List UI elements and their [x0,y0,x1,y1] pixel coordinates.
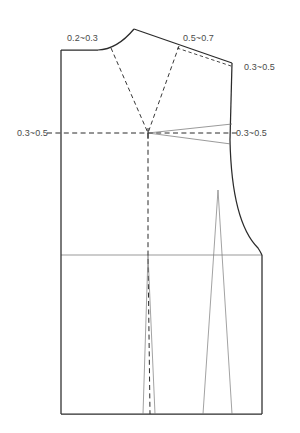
annotation-shoulder-dart-intake: 0.5~0.7 [183,33,214,43]
armhole-curve [230,140,262,255]
pattern-diagram-root: 0.2~0.3 0.5~0.7 0.3~0.5 0.3~0.5 0.3~0.5 [0,0,300,433]
bust-dart-lower-leg [148,133,231,144]
annotation-shoulder-tip-drop: 0.3~0.5 [244,62,275,72]
annotation-neck-shoulder-ease: 0.2~0.3 [67,33,98,43]
bust-dart-upper-leg [148,124,232,133]
center-waist-dart-right-leg [148,255,155,414]
shoulder-dart-leg [148,46,179,133]
annotation-left-bust-line-ease: 0.3~0.5 [17,128,48,138]
shoulder-tip-to-armhole [230,63,232,140]
shoulder-seam-lowered-guide [177,48,231,66]
center-waist-dart-left-leg [143,255,148,414]
side-waist-dart-right-leg [218,190,232,414]
neck-dart-leg [111,48,148,133]
pattern-canvas: 0.2~0.3 0.5~0.7 0.3~0.5 0.3~0.5 0.3~0.5 [0,0,300,433]
side-waist-dart-left-leg [203,190,218,414]
annotation-right-bust-dart-intake: 0.3~0.5 [236,128,267,138]
